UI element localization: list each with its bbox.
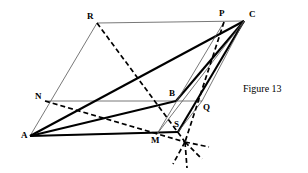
segment-B-C <box>176 21 244 101</box>
star-ray-down-left <box>173 142 185 164</box>
figure-container: A R C P N Q B M S Figure 13 <box>0 0 308 173</box>
vertex-label-P: P <box>219 9 225 18</box>
segment-layer <box>30 21 244 142</box>
vertex-label-C: C <box>249 10 256 19</box>
dashed-intersection-star <box>173 142 209 168</box>
vertex-label-Q: Q <box>203 103 210 112</box>
vertex-label-A: A <box>21 131 28 140</box>
segment-M-C <box>157 21 244 134</box>
vertex-label-S: S <box>174 120 179 129</box>
segment-R-C <box>97 21 244 23</box>
vertex-label-R: R <box>87 12 94 21</box>
vertex-label-M: M <box>151 136 160 145</box>
vertex-label-B: B <box>169 89 175 98</box>
star-ray-down <box>185 142 187 168</box>
figure-caption: Figure 13 <box>243 84 282 94</box>
segment-S-Q <box>178 101 202 132</box>
segment-R-X <box>97 23 185 142</box>
vertex-label-N: N <box>35 92 42 101</box>
